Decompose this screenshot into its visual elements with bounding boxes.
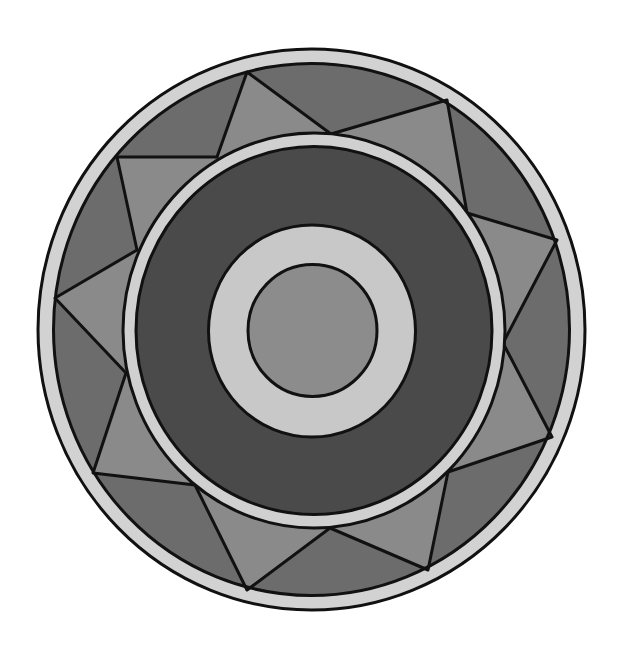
- mandala-figure: Concentric circular mandala with zigzag …: [0, 0, 627, 657]
- center-disc: [248, 265, 377, 397]
- mandala-svg: [0, 0, 627, 657]
